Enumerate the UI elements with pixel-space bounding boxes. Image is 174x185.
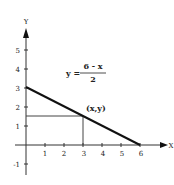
chart-canvas: 1 2 3 4 5 6 1 2 3 4 5 -1 X Y y = 6 - x 2… bbox=[0, 0, 174, 185]
x-tick-label: 1 bbox=[43, 150, 47, 158]
x-tick-label: 6 bbox=[139, 150, 144, 158]
equation-lhs: y = bbox=[65, 68, 80, 78]
x-axis-label: X bbox=[169, 142, 174, 150]
y-tick-label: 5 bbox=[16, 47, 20, 55]
x-tick-label: 5 bbox=[120, 150, 124, 158]
y-tick-label: 2 bbox=[16, 104, 20, 112]
equation-numerator: 6 - x bbox=[83, 61, 102, 71]
x-tick-label: 4 bbox=[101, 150, 106, 158]
equation-denominator: 2 bbox=[90, 74, 96, 84]
x-tick-label: 2 bbox=[62, 150, 66, 158]
y-tick-label: -1 bbox=[13, 161, 20, 169]
y-tick-label: 4 bbox=[16, 66, 21, 74]
y-tick-label: 3 bbox=[16, 85, 20, 93]
y-axis-arrow-icon bbox=[23, 28, 29, 38]
y-tick-label: 1 bbox=[16, 123, 20, 131]
x-axis-arrow-icon bbox=[160, 142, 168, 148]
x-tick-label: 3 bbox=[82, 150, 86, 158]
point-label: (x,y) bbox=[86, 103, 106, 113]
y-axis-label: Y bbox=[23, 18, 29, 26]
